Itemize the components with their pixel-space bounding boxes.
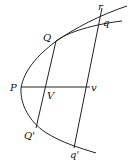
label-q: q (103, 17, 109, 28)
label-q-prime: q' (70, 149, 79, 160)
label-P: P (9, 82, 17, 93)
label-V: V (47, 90, 56, 101)
chord-rqprime (74, 8, 102, 148)
label-v: v (91, 82, 97, 93)
label-Q-prime: Q' (24, 130, 35, 141)
tangent-line (55, 6, 127, 42)
chord-QQprime (36, 41, 56, 128)
label-Q: Q (43, 32, 51, 43)
parabola-diagram: r q Q P V v Q' q' (0, 0, 135, 164)
label-r: r (98, 1, 104, 12)
